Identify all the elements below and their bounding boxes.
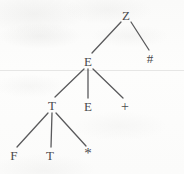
tree-edge xyxy=(51,113,52,147)
parse-tree-figure: ZE#TE+FT* xyxy=(0,0,184,174)
tree-edge xyxy=(92,22,121,53)
tree-edge xyxy=(93,69,123,98)
tree-node-n6: F xyxy=(10,149,17,162)
tree-edge xyxy=(131,22,149,50)
tree-edge xyxy=(17,113,48,147)
tree-edge xyxy=(56,113,86,146)
tree-node-n1: E xyxy=(84,55,92,68)
tree-node-n7: T xyxy=(46,149,54,162)
tree-node-n0: Z xyxy=(122,9,130,22)
tree-node-n5: + xyxy=(121,100,129,114)
tree-node-n3: T xyxy=(48,99,56,112)
tree-node-n4: E xyxy=(84,100,92,113)
tree-node-n8: * xyxy=(84,146,92,161)
tree-edges xyxy=(0,0,184,174)
tree-node-n2: # xyxy=(147,52,154,65)
tree-edge xyxy=(55,69,84,97)
